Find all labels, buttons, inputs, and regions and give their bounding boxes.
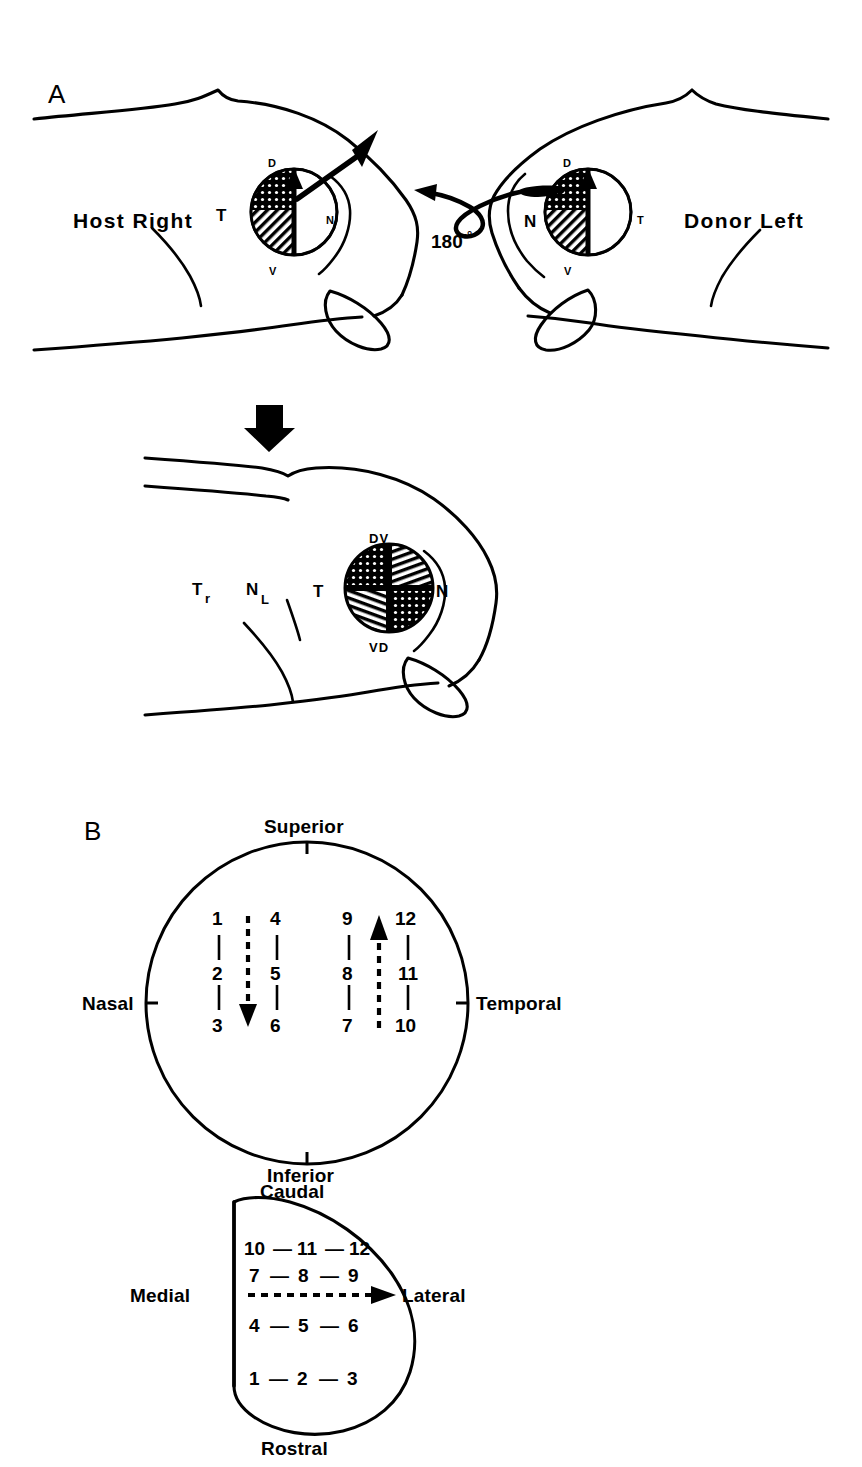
host-eye-dorsal-label: D	[268, 157, 276, 169]
tectum-dash: —	[270, 1315, 289, 1336]
retina-up-arrow	[370, 915, 388, 1028]
retina-circle	[146, 842, 468, 1164]
retina-num: 4	[270, 908, 281, 929]
nasal-left-subscript: L	[261, 592, 269, 607]
rotation-degree-symbol: °	[467, 228, 472, 243]
tectum-medial-lateral-arrow	[248, 1286, 396, 1304]
host-eye-temporal-label: T	[216, 206, 227, 225]
nl-pointer-line	[287, 600, 300, 640]
retina-num: 5	[270, 963, 281, 984]
retina-num: 9	[342, 908, 353, 929]
composite-eye-diagram	[344, 543, 434, 633]
retina-num: 6	[270, 1015, 281, 1036]
tectum-num: 4	[249, 1315, 260, 1336]
donor-eye-nasal-label: N	[524, 212, 536, 231]
host-transplant-arrow	[297, 130, 378, 199]
tectum-num: 11	[297, 1238, 318, 1259]
tectum-dash: —	[270, 1265, 289, 1286]
figure-root: A B Host Right Donor Left 180 ° D V T N …	[0, 0, 862, 1467]
tectum-medial-label: Medial	[130, 1285, 190, 1306]
tectum-num: 1	[249, 1368, 260, 1389]
tectum-dash: —	[319, 1368, 338, 1389]
tectum-dash: —	[269, 1368, 288, 1389]
retina-nasal-label: Nasal	[82, 993, 134, 1014]
composite-dv-label: DV	[369, 531, 389, 546]
retina-num: 1	[212, 908, 223, 929]
host-eye-nasal-label: N	[326, 214, 334, 226]
tectum-num: 6	[348, 1315, 359, 1336]
retina-num: 10	[395, 1015, 416, 1036]
retina-num: 12	[395, 908, 416, 929]
composite-vd-label: VD	[369, 640, 389, 655]
tectum-num: 3	[347, 1368, 358, 1389]
panel-b-letter: B	[84, 816, 102, 846]
tectum-rostral-label: T	[192, 580, 203, 599]
donor-eye-diagram	[545, 166, 631, 258]
tectum-rostral-label-b: Rostral	[261, 1438, 328, 1459]
tectum-dash: —	[320, 1315, 339, 1336]
tectum-dash: —	[273, 1238, 292, 1259]
retina-num: 3	[212, 1015, 223, 1036]
tectum-num: 9	[348, 1265, 359, 1286]
tectum-num: 12	[349, 1238, 370, 1259]
tectum-dash: —	[320, 1265, 339, 1286]
tectum-lateral-label: Lateral	[402, 1285, 466, 1306]
retina-num: 11	[398, 963, 419, 984]
composite-temporal-label: T	[313, 582, 324, 601]
host-eye-ventral-label: V	[269, 265, 277, 277]
tectum-dash: —	[325, 1238, 344, 1259]
retina-num: 7	[342, 1015, 353, 1036]
retina-num: 8	[342, 963, 353, 984]
donor-left-label: Donor Left	[684, 209, 804, 232]
retina-down-arrow	[239, 916, 257, 1027]
donor-eye-temporal-label: T	[637, 214, 644, 226]
transition-down-arrow	[244, 405, 295, 452]
retina-superior-label: Superior	[264, 816, 344, 837]
donor-eye-dorsal-label: D	[563, 157, 571, 169]
nasal-left-label: N	[246, 580, 258, 599]
panel-a-letter: A	[48, 79, 66, 109]
tectum-num: 10	[244, 1238, 265, 1259]
retina-temporal-label: Temporal	[476, 993, 562, 1014]
tectum-rostral-subscript: r	[205, 591, 210, 606]
host-right-label: Host Right	[73, 209, 193, 232]
figure-canvas: A B Host Right Donor Left 180 ° D V T N …	[0, 0, 862, 1467]
donor-eye-ventral-label: V	[564, 265, 572, 277]
composite-nasal-label: N	[436, 582, 448, 601]
tectum-num: 2	[297, 1368, 308, 1389]
retina-num: 2	[212, 963, 223, 984]
tectum-num: 8	[298, 1265, 309, 1286]
tectum-num: 5	[298, 1315, 309, 1336]
rotation-label: 180	[431, 231, 463, 252]
tectum-caudal-label: Caudal	[260, 1181, 325, 1202]
tectum-num: 7	[249, 1265, 260, 1286]
